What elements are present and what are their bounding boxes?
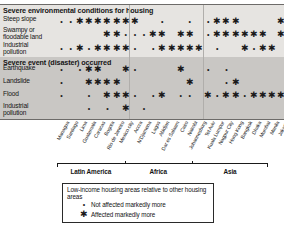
marker-star: ✱ [149, 29, 157, 40]
marker-star: ✱ [113, 16, 121, 27]
marker-star: ✱ [85, 16, 93, 27]
marker-star: ✱ [103, 77, 111, 88]
row-label-landslide: Landslide [3, 78, 53, 85]
region-label: Africa [118, 168, 198, 175]
axis-region-tick [192, 161, 193, 164]
marker-dot: • [103, 103, 111, 114]
legend: Low-income housing areas relative to oth… [62, 183, 214, 223]
marker-star: ✱ [103, 43, 111, 54]
row-label-industrial-pollution-disaster: Industrial pollution [3, 103, 53, 117]
row-label-flood: Flood [3, 91, 53, 98]
marker-star: ✱ [113, 43, 121, 54]
axis-region-tick [125, 161, 126, 164]
marker-row: ••✱✱✱••✱••✱•✱✱•✱✱✱✱ [55, 90, 284, 101]
marker-star: ✱ [222, 90, 230, 101]
marker-star: ✱ [259, 43, 267, 54]
marker-dot: • [158, 16, 166, 27]
marker-star: ✱ [122, 64, 130, 75]
legend-entry-not-affected: • Not affected markedly more [67, 201, 210, 208]
marker-dot: • [131, 64, 139, 75]
dot-icon: • [77, 201, 91, 208]
star-icon: ✱ [77, 209, 91, 219]
row-label-earthquake: Earthquake [3, 65, 53, 72]
marker-dot: • [131, 43, 139, 54]
marker-row: ••✱• [55, 103, 284, 114]
marker-row: ✱✱•••✱✱✱✱•✱✱✱✱✱✱✱ [55, 29, 284, 40]
marker-star: ✱ [232, 90, 240, 101]
legend-title: Low-income housing areas relative to oth… [67, 186, 210, 200]
marker-dot: • [186, 90, 194, 101]
marker-row: ••✱✱✱•✱•• [55, 64, 284, 75]
marker-dot: • [58, 77, 66, 88]
marker-dot: • [204, 29, 212, 40]
marker-dot: • [131, 90, 139, 101]
marker-dot: • [241, 90, 249, 101]
marker-star: ✱ [177, 43, 185, 54]
marker-star: ✱ [277, 29, 284, 40]
marker-dot: • [204, 64, 212, 75]
marker-star: ✱ [250, 90, 258, 101]
marker-dot: • [140, 103, 148, 114]
marker-star: ✱ [204, 90, 212, 101]
marker-dot: • [85, 43, 93, 54]
marker-star: ✱ [186, 77, 194, 88]
marker-star: ✱ [158, 90, 166, 101]
marker-star: ✱ [113, 77, 121, 88]
marker-star: ✱ [94, 77, 102, 88]
marker-star: ✱ [168, 43, 176, 54]
marker-star: ✱ [122, 43, 130, 54]
marker-star: ✱ [250, 29, 258, 40]
marker-dot: • [58, 16, 66, 27]
marker-dot: • [58, 64, 66, 75]
marker-star: ✱ [113, 29, 121, 40]
marker-dot: • [213, 90, 221, 101]
marker-dot: • [67, 43, 75, 54]
marker-star: ✱ [76, 43, 84, 54]
marker-star: ✱ [103, 90, 111, 101]
marker-star: ✱ [277, 16, 284, 27]
marker-star: ✱ [177, 64, 185, 75]
marker-dot: • [204, 16, 212, 27]
marker-dot: • [67, 16, 75, 27]
marker-star: ✱ [213, 29, 221, 40]
marker-star: ✱ [268, 90, 276, 101]
marker-star: ✱ [268, 43, 276, 54]
marker-row: ••✱•✱✱✱✱••✱✱✱✱✱•✱•✱✱ [55, 43, 284, 54]
marker-star: ✱ [122, 90, 130, 101]
marker-star: ✱ [94, 64, 102, 75]
legend-label-not-affected: Not affected markedly more [91, 201, 166, 208]
marker-star: ✱ [213, 16, 221, 27]
marker-dot: • [58, 90, 66, 101]
marker-star: ✱ [113, 90, 121, 101]
marker-dot: • [85, 103, 93, 114]
marker-star: ✱ [259, 29, 267, 40]
marker-row: •✱✱✱✱✱•✱ [55, 77, 284, 88]
row-label-steep-slope: Steep slope [3, 16, 53, 23]
legend-entry-affected: ✱ Affected markedly more [67, 209, 210, 219]
marker-dot: • [131, 29, 139, 40]
marker-star: ✱ [277, 90, 284, 101]
marker-star: ✱ [76, 16, 84, 27]
marker-dot: • [140, 29, 148, 40]
region-axis [57, 163, 268, 167]
axis-end-tick [57, 163, 58, 167]
marker-dot: • [58, 43, 66, 54]
marker-dot: • [177, 90, 185, 101]
marker-star: ✱ [241, 43, 249, 54]
marker-grid: ••✱✱✱✱✱✱✱•••✱✱✱✱✱✱•••✱✱✱✱•✱✱✱✱✱✱✱••✱•✱✱✱… [55, 0, 284, 120]
marker-star: ✱ [232, 77, 240, 88]
marker-star: ✱ [103, 29, 111, 40]
marker-star: ✱ [232, 16, 240, 27]
marker-star: ✱ [186, 29, 194, 40]
marker-star: ✱ [158, 43, 166, 54]
region-axis-line [57, 163, 268, 164]
city-tick-labels: ManaguaSantiagoLimaGuatemalaCaracasBogot… [55, 120, 284, 164]
marker-dot: • [76, 64, 84, 75]
marker-dot: • [250, 43, 258, 54]
marker-dot: • [222, 77, 230, 88]
marker-dot: • [149, 90, 157, 101]
marker-star: ✱ [94, 43, 102, 54]
marker-dot: • [222, 64, 230, 75]
environmental-conditions-chart: Severe environmental conditions for hous… [0, 0, 284, 228]
marker-star: ✱ [158, 29, 166, 40]
